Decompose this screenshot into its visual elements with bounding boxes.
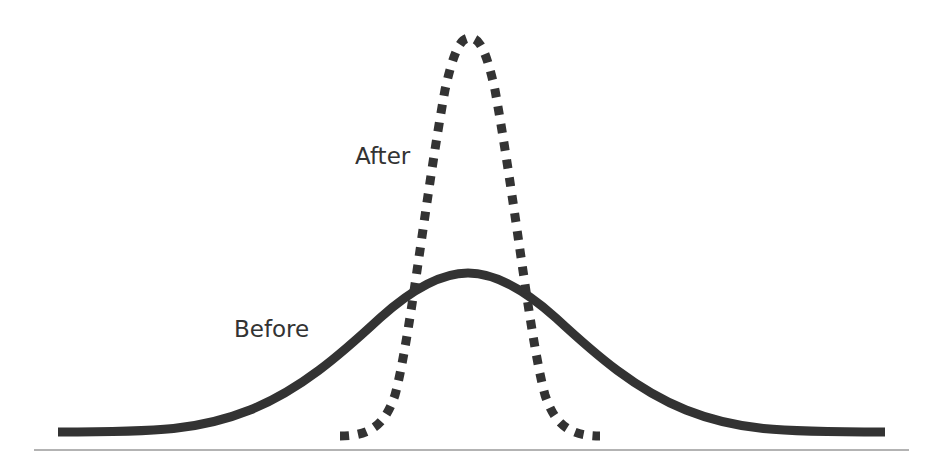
diagram-svg xyxy=(0,0,942,471)
after-curve xyxy=(340,38,600,436)
distribution-diagram: After Before xyxy=(0,0,942,471)
after-label: After xyxy=(355,145,410,168)
before-curve xyxy=(58,273,885,432)
before-label: Before xyxy=(234,318,309,341)
